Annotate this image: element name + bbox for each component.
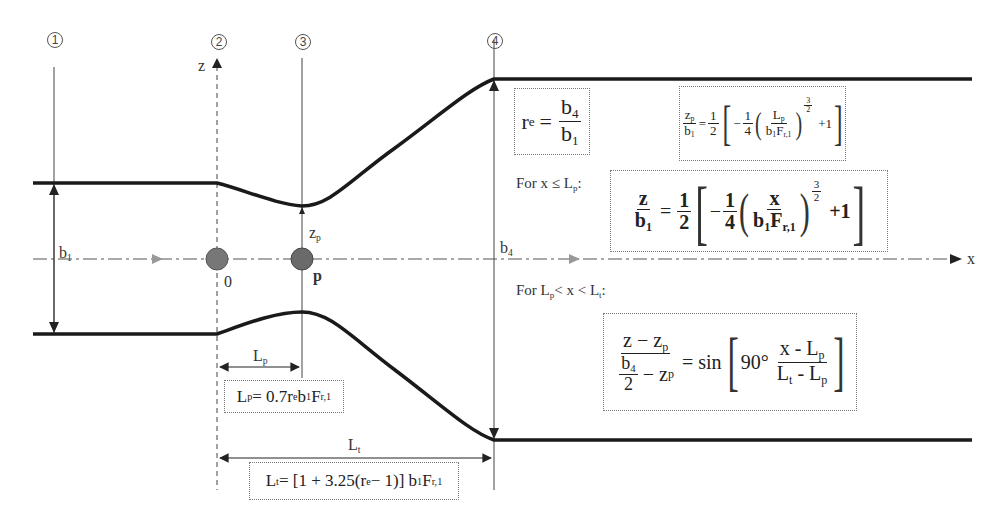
x-axis-arrowhead-icon [950, 254, 962, 264]
zp-label: zp [309, 225, 321, 242]
arrowhead-icon [49, 184, 59, 195]
sine-equation-box: z − zp b42 − zp = sin [ 90° x - Lp Lt - … [603, 313, 857, 411]
section-marker-3: 3 [295, 34, 311, 50]
lp-label: Lp [253, 348, 268, 365]
re-equation-box: re = b4 b1 [514, 88, 590, 155]
lt-label: Lt [348, 437, 360, 454]
section-marker-2: 2 [211, 34, 227, 50]
condition-1-label: For x ≤ Lp: [516, 175, 582, 193]
z-axis-arrowhead-icon [212, 58, 222, 68]
b1-label: b1 [59, 245, 72, 262]
flow-arrow-icon [152, 254, 163, 264]
zp-equation-box: zp b1 = 12 [ − 14 ( Lp b1Fr,1 ) 32 +1 ] [679, 86, 846, 161]
z-equation-box: z b1 = 12 [ − 14 ( x b1Fr,1 ) 32 +1 ] [610, 170, 888, 252]
point-p [291, 248, 313, 270]
channel-geometry-drawing [0, 0, 1000, 520]
condition-2-label: For Lp< x < Lt: [516, 282, 606, 300]
section-marker-1: 1 [47, 32, 63, 48]
origin-label: 0 [224, 274, 232, 290]
origin-point [206, 248, 228, 270]
flow-arrow-icon [569, 254, 580, 264]
arrowhead-icon [299, 207, 305, 214]
section-marker-4: 4 [487, 33, 503, 49]
arrowhead-icon [49, 322, 59, 333]
z-axis-label: z [198, 58, 205, 74]
x-axis-label: x [967, 251, 975, 267]
lt-equation-box: Lt = [1 + 3.25(re − 1)] b1 Fr,1 [249, 462, 459, 500]
point-p-label: p [313, 268, 322, 284]
lp-equation-box: Lp = 0.7re b1 Fr,1 [224, 380, 344, 413]
b4-label: b4 [500, 240, 513, 257]
